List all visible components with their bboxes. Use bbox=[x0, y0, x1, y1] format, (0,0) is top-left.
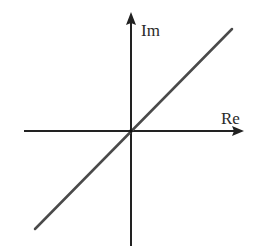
origin-point bbox=[129, 129, 133, 133]
imaginary-axis-label: Im bbox=[141, 21, 160, 40]
complex-plane-diagram: Im Re bbox=[0, 0, 259, 248]
real-axis-label: Re bbox=[221, 109, 240, 128]
